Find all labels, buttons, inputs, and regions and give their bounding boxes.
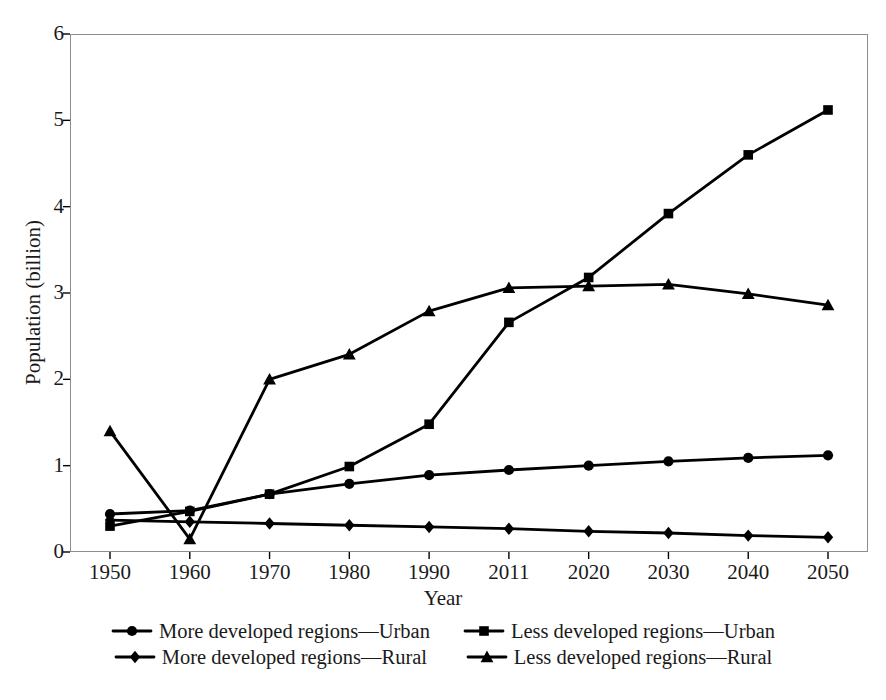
legend-item[interactable]: More developed regions—Urban [111, 620, 463, 642]
series-marker-0 [504, 465, 514, 475]
legend-marker [111, 622, 153, 640]
x-axis-tick-label: 2040 [703, 560, 793, 584]
x-axis-tick-label: 2030 [623, 560, 713, 584]
chart-root: 0123456 Population (billion) 19501960197… [0, 0, 886, 700]
series-marker-0 [663, 456, 673, 466]
series-marker-1 [823, 105, 833, 115]
x-axis-title: Year [0, 586, 886, 611]
y-axis-title: Population (billion) [21, 173, 46, 433]
y-axis-tick-label: 0 [18, 541, 64, 562]
series-marker-0 [584, 461, 594, 471]
series-marker-1 [424, 419, 434, 429]
chart-legend: More developed regions—UrbanLess develop… [0, 620, 886, 668]
x-axis-tick-label: 2050 [783, 560, 873, 584]
triangle-marker-icon [466, 648, 508, 666]
series-marker-2 [583, 525, 593, 537]
series-marker-1 [743, 150, 753, 160]
series-marker-1 [504, 318, 514, 328]
series-marker-1 [265, 489, 275, 499]
series-marker-2 [663, 527, 673, 539]
series-marker-0 [823, 450, 833, 460]
legend-row: More developed regions—RuralLess develop… [114, 646, 772, 668]
series-line-1 [110, 110, 828, 526]
legend-item-label: Less developed regions—Rural [514, 646, 772, 668]
series-marker-2 [264, 517, 274, 529]
series-line-3 [110, 284, 828, 539]
legend-marker [466, 648, 508, 666]
series-marker-3 [104, 425, 117, 437]
legend-item[interactable]: Less developed regions—Urban [463, 620, 775, 642]
legend-item-label: More developed regions—Rural [162, 646, 427, 668]
legend-marker [114, 648, 156, 666]
series-marker-3 [343, 348, 356, 360]
series-marker-1 [345, 462, 355, 472]
legend-marker [463, 622, 505, 640]
series-marker-2 [344, 519, 354, 531]
x-axis-tick-label: 1990 [384, 560, 474, 584]
series-marker-0 [743, 453, 753, 463]
circle-marker-icon [111, 622, 153, 640]
y-axis-tick-label: 1 [18, 455, 64, 476]
x-axis-tick-label: 1960 [145, 560, 235, 584]
legend-item[interactable]: Less developed regions—Rural [466, 646, 772, 668]
x-axis-tick-label: 1970 [225, 560, 315, 584]
series-marker-2 [504, 522, 514, 534]
series-marker-1 [185, 507, 195, 517]
series-marker-2 [185, 516, 195, 528]
legend-row: More developed regions—UrbanLess develop… [111, 620, 775, 642]
series-line-2 [110, 520, 828, 537]
x-axis-tick-label: 2011 [464, 560, 554, 584]
series-marker-2 [743, 529, 753, 541]
series-marker-2 [424, 521, 434, 533]
x-axis-tick-label: 1980 [304, 560, 394, 584]
series-marker-2 [823, 531, 833, 543]
series-marker-1 [664, 209, 674, 219]
y-axis-tick-label: 6 [18, 23, 64, 44]
x-axis-tick-label: 1950 [65, 560, 155, 584]
legend-item-label: Less developed regions—Urban [511, 620, 775, 642]
diamond-marker-icon [114, 648, 156, 666]
series-marker-0 [344, 479, 354, 489]
legend-item-label: More developed regions—Urban [159, 620, 430, 642]
series-marker-0 [424, 470, 434, 480]
legend-item[interactable]: More developed regions—Rural [114, 646, 466, 668]
square-marker-icon [463, 622, 505, 640]
y-axis-tick-label: 5 [18, 109, 64, 130]
x-axis-tick-label: 2020 [544, 560, 634, 584]
